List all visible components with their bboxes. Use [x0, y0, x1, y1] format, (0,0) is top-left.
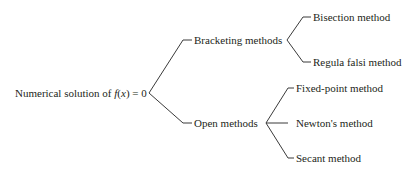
node-newtons-method: Newton's method — [296, 116, 373, 130]
connector-root-open — [149, 93, 192, 123]
connector-open-secant — [266, 123, 294, 158]
node-secant-method: Secant method — [296, 151, 361, 165]
connector-root-bracketing — [149, 40, 192, 93]
root-label-suffix: ) = 0 — [126, 87, 147, 99]
node-bisection-method: Bisection method — [313, 10, 390, 24]
node-regula-falsi-method: Regula falsi method — [313, 55, 402, 69]
node-fixed-point-method: Fixed-point method — [296, 81, 383, 95]
root-label-prefix: Numerical solution of — [15, 87, 114, 99]
connector-open-fixedpoint — [266, 88, 294, 123]
root-node: Numerical solution of f(x) = 0 — [15, 86, 147, 100]
connector-bracketing-bisection — [287, 17, 311, 40]
node-bracketing-methods: Bracketing methods — [194, 33, 282, 47]
node-open-methods: Open methods — [194, 116, 258, 130]
connector-bracketing-regula — [287, 40, 311, 62]
